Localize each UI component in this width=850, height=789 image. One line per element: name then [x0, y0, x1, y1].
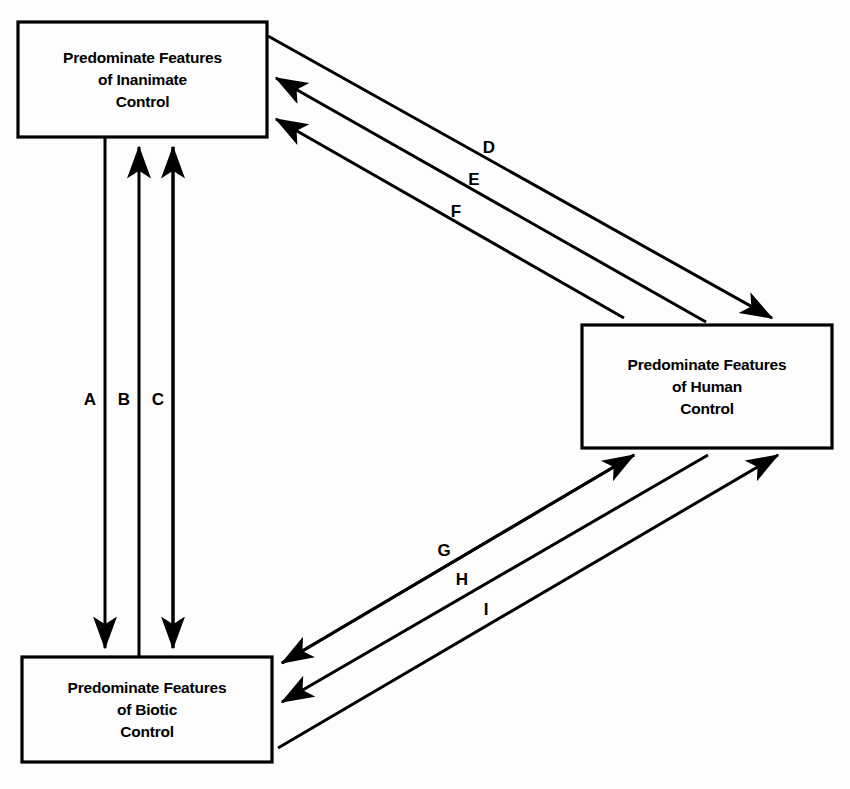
- edge-label-g: G: [437, 541, 450, 561]
- edge-e: [276, 78, 706, 322]
- edge-label-f: F: [451, 202, 461, 222]
- node-box-biotic[interactable]: [22, 657, 272, 762]
- edge-label-d: D: [483, 138, 495, 158]
- edge-label-h: H: [456, 570, 468, 590]
- node-box-inanimate[interactable]: [18, 22, 267, 137]
- diagram-canvas: Predominate Features of Inanimate Contro…: [0, 0, 850, 789]
- edge-label-e: E: [468, 170, 479, 190]
- edge-g: [282, 455, 634, 663]
- edge-d: [268, 36, 772, 318]
- edge-h: [282, 455, 708, 702]
- edge-label-a: A: [84, 390, 96, 410]
- node-box-human[interactable]: [582, 325, 832, 448]
- edge-label-c: C: [152, 390, 164, 410]
- edge-label-b: B: [118, 390, 130, 410]
- edge-label-i: I: [484, 600, 489, 620]
- edge-i: [278, 455, 778, 748]
